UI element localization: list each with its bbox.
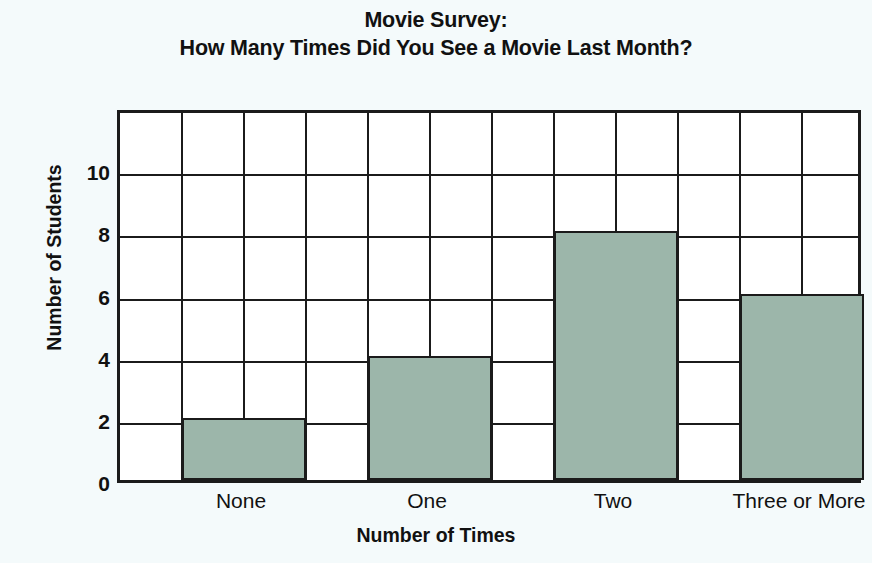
chart-title-line-2: How Many Times Did You See a Movie Last …: [0, 34, 872, 62]
y-axis-tick-label: 2: [62, 410, 110, 431]
bar: [554, 231, 678, 480]
x-axis-title: Number of Times: [0, 524, 872, 547]
plot-area: [117, 110, 861, 483]
chart-title-line-1: Movie Survey:: [0, 6, 872, 34]
x-axis-tick-labels: NoneOneTwoThree or More: [117, 488, 861, 520]
x-axis-tick-label: Three or More: [732, 488, 865, 514]
bar: [182, 418, 306, 480]
x-axis-tick-label: One: [407, 488, 447, 514]
bar: [368, 356, 492, 480]
y-axis-tick-label: 10: [62, 162, 110, 183]
y-axis-tick-label: 8: [62, 224, 110, 245]
bar: [740, 294, 864, 481]
y-axis-tick-label: 0: [62, 473, 110, 494]
chart-title: Movie Survey: How Many Times Did You See…: [0, 6, 872, 62]
x-axis-tick-label: Two: [594, 488, 633, 514]
y-axis-tick-labels: 0246810: [62, 110, 110, 483]
y-axis-tick-label: 4: [62, 348, 110, 369]
y-axis-tick-label: 6: [62, 286, 110, 307]
bars-group: [120, 113, 858, 480]
x-axis-tick-label: None: [216, 488, 266, 514]
bar-chart: Movie Survey: How Many Times Did You See…: [0, 0, 872, 563]
